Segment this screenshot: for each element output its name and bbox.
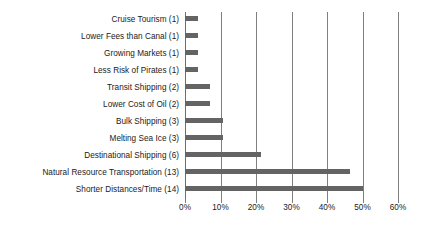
bar — [185, 50, 198, 55]
bar — [185, 16, 198, 21]
bar — [185, 84, 210, 89]
bar — [185, 118, 223, 123]
category-label: Lower Fees than Canal (1) — [81, 29, 179, 45]
category-axis-labels: Cruise Tourism (1)Lower Fees than Canal … — [0, 12, 179, 199]
bar — [185, 101, 210, 106]
x-axis-tick-label: 60% — [390, 203, 406, 212]
bar — [185, 169, 350, 174]
category-label: Transit Shipping (2) — [107, 80, 179, 96]
bar-row — [185, 131, 398, 147]
bar-row — [185, 80, 398, 96]
bar — [185, 33, 198, 38]
bar-row — [185, 46, 398, 62]
category-label: Natural Resource Transportation (13) — [42, 165, 179, 181]
gridline-60pct — [398, 12, 399, 199]
bar-row — [185, 12, 398, 28]
plot-area — [185, 12, 398, 199]
bar — [185, 186, 363, 191]
category-label: Cruise Tourism (1) — [112, 12, 179, 28]
bar — [185, 135, 223, 140]
bar — [185, 67, 198, 72]
category-label: Shorter Distances/Time (14) — [76, 182, 179, 198]
bar — [185, 152, 261, 157]
bar-row — [185, 148, 398, 164]
bar-chart: Cruise Tourism (1)Lower Fees than Canal … — [0, 0, 423, 244]
x-axis-tick-label: 10% — [212, 203, 228, 212]
category-label: Destinational Shipping (6) — [84, 148, 179, 164]
x-axis-tick-label: 40% — [319, 203, 335, 212]
bar-rows — [185, 12, 398, 199]
x-axis-tick-label: 20% — [248, 203, 264, 212]
category-label: Growing Markets (1) — [104, 46, 179, 62]
bar-row — [185, 63, 398, 79]
category-label: Bulk Shipping (3) — [116, 114, 179, 130]
bar-row — [185, 182, 398, 198]
x-axis-tick-label: 0% — [179, 203, 191, 212]
bar-row — [185, 165, 398, 181]
x-axis-tick-label: 30% — [283, 203, 299, 212]
category-label: Less Risk of Pirates (1) — [93, 63, 179, 79]
category-label: Lower Cost of Oil (2) — [103, 97, 179, 113]
bar-row — [185, 97, 398, 113]
bar-row — [185, 114, 398, 130]
x-axis-tick-label: 50% — [354, 203, 370, 212]
bar-row — [185, 29, 398, 45]
x-axis-labels: 0%10%20%30%40%50%60% — [0, 203, 423, 219]
category-label: Melting Sea Ice (3) — [110, 131, 179, 147]
